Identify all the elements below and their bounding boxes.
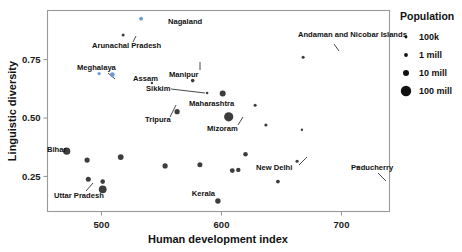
point-label: Meghalaya xyxy=(77,63,117,72)
data-point[interactable] xyxy=(296,160,299,163)
point-label: Maharashtra xyxy=(189,99,235,108)
data-point[interactable] xyxy=(100,179,105,184)
point-label: Sikkim xyxy=(146,84,171,93)
data-point[interactable] xyxy=(86,177,91,182)
data-point[interactable] xyxy=(122,34,125,37)
data-point[interactable] xyxy=(220,90,226,96)
point-label: Nagaland xyxy=(168,17,203,26)
data-point[interactable] xyxy=(85,157,90,162)
data-point[interactable] xyxy=(215,198,220,203)
data-point[interactable] xyxy=(206,92,209,95)
data-point[interactable] xyxy=(236,168,240,172)
data-point[interactable] xyxy=(98,72,101,75)
legend-label: 1 mill xyxy=(419,50,442,60)
point-label: New Delhi xyxy=(256,163,292,172)
x-axis-title: Human development index xyxy=(148,233,289,245)
data-point[interactable] xyxy=(243,152,248,157)
data-point[interactable] xyxy=(118,154,124,160)
y-tick-label: 0.25 xyxy=(22,171,41,182)
legend-marker xyxy=(403,70,409,76)
x-tick-label: 600 xyxy=(214,219,230,230)
point-label: Puducherry xyxy=(351,163,394,172)
scatter-chart: 500600700 0.250.500.75 NagalandArunachal… xyxy=(0,0,462,252)
point-label: Arunachal Pradesh xyxy=(92,41,162,50)
legend-label: 100k xyxy=(419,32,440,42)
point-label: Manipur xyxy=(169,70,199,79)
point-label: Assam xyxy=(133,74,158,83)
legend-label: 10 mill xyxy=(419,68,447,78)
data-point[interactable] xyxy=(191,79,195,83)
legend-label: 100 mill xyxy=(419,86,452,96)
y-tick-label: 0.50 xyxy=(22,112,41,123)
y-tick-label: 0.75 xyxy=(22,54,41,65)
x-tick-label: 700 xyxy=(334,219,350,230)
y-axis-title: Linguistic diversity xyxy=(6,60,18,161)
data-point[interactable] xyxy=(276,180,280,184)
data-point[interactable] xyxy=(230,168,235,173)
point-label: Uttar Pradesh xyxy=(54,191,104,200)
plot-svg: 500600700 0.250.500.75 NagalandArunachal… xyxy=(0,0,462,252)
legend-title: Population xyxy=(400,10,454,22)
data-point[interactable] xyxy=(224,112,233,121)
point-label: Mizoram xyxy=(207,124,238,133)
point-label: Bihar xyxy=(47,145,66,154)
legend-marker xyxy=(405,36,408,39)
data-point[interactable] xyxy=(110,72,115,77)
data-point[interactable] xyxy=(197,162,202,167)
data-point[interactable] xyxy=(301,129,303,131)
data-point[interactable] xyxy=(302,56,305,59)
data-point[interactable] xyxy=(139,17,143,21)
data-point[interactable] xyxy=(163,163,168,168)
point-label: Andaman and Nicobar Islands xyxy=(298,30,407,39)
x-tick-label: 500 xyxy=(94,219,110,230)
legend-marker xyxy=(404,53,408,57)
data-point[interactable] xyxy=(264,123,267,126)
data-point[interactable] xyxy=(254,104,257,107)
point-label: Kerala xyxy=(192,189,216,198)
point-label: Tripura xyxy=(145,115,172,124)
legend-marker xyxy=(401,86,411,96)
data-point[interactable] xyxy=(175,109,180,114)
